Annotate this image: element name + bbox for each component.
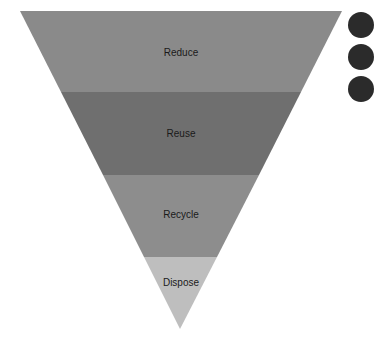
marker-circle-1 (348, 12, 374, 38)
layer-label-reduce: Reduce (121, 47, 241, 58)
marker-circle-2 (348, 44, 374, 70)
layer-label-recycle: Recycle (121, 209, 241, 220)
layer-label-reuse: Reuse (121, 128, 241, 139)
layer-dispose (144, 257, 217, 329)
layer-label-dispose: Dispose (121, 277, 241, 288)
marker-circle-3 (348, 76, 374, 102)
